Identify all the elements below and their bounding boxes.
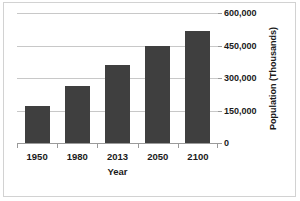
x-tick-label: 2100	[178, 150, 218, 164]
x-tick	[138, 144, 139, 148]
x-axis-tick-labels: 19501980201320502100	[17, 150, 218, 164]
x-tick-label: 1980	[57, 150, 97, 164]
bar-slot	[17, 13, 57, 143]
bar-slot	[138, 13, 178, 143]
bar-slot	[178, 13, 218, 143]
x-tick-label: 2050	[138, 150, 178, 164]
bar-slot	[57, 13, 97, 143]
x-tick	[178, 144, 179, 148]
y-tick	[218, 13, 222, 14]
x-tick-label: 1950	[17, 150, 57, 164]
x-axis-ticks	[17, 144, 218, 148]
bar-chart: 0150,000300,000450,000600,000 Population…	[0, 0, 300, 201]
bar-2050[interactable]	[145, 46, 170, 144]
x-tick	[217, 144, 218, 148]
bar-1980[interactable]	[65, 86, 90, 143]
y-axis-title: Population (Thousands)	[266, 13, 280, 144]
y-tick	[218, 46, 222, 47]
y-axis-ticks	[218, 13, 222, 144]
x-axis-title: Year	[17, 166, 218, 178]
x-tick-label: 2013	[97, 150, 137, 164]
bar-series	[17, 13, 218, 143]
x-tick	[17, 144, 18, 148]
bar-2013[interactable]	[105, 65, 130, 143]
plot-area	[17, 13, 218, 143]
y-tick	[218, 111, 222, 112]
x-tick	[57, 144, 58, 148]
x-tick	[97, 144, 98, 148]
y-tick	[218, 78, 222, 79]
bar-slot	[97, 13, 137, 143]
y-tick	[218, 143, 222, 144]
bar-2100[interactable]	[185, 31, 210, 143]
bar-1950[interactable]	[25, 106, 50, 143]
